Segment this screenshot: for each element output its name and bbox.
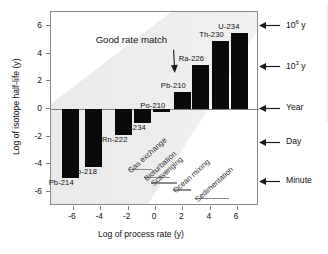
bar-label-po-218: Po-218 bbox=[72, 168, 97, 176]
x-tick-label: -4 bbox=[90, 211, 108, 221]
right-axis-arrow-icon bbox=[259, 177, 281, 186]
bar-label-pb-214: Pb-214 bbox=[49, 179, 74, 187]
x-axis-title: Log of process rate (y) bbox=[98, 229, 184, 239]
bar-label-po-210: Po-210 bbox=[140, 102, 165, 110]
y-tick-label: -6 bbox=[24, 186, 42, 196]
x-tick-mark bbox=[128, 206, 129, 210]
x-tick-mark bbox=[73, 206, 74, 210]
x-tick-label: 2 bbox=[172, 211, 190, 221]
bar-label-th-234: Th-234 bbox=[121, 124, 146, 132]
x-tick-label: -6 bbox=[63, 211, 81, 221]
y-tick-label: -2 bbox=[24, 131, 42, 141]
right-axis-arrow-icon bbox=[259, 138, 281, 147]
y-tick-label: -4 bbox=[24, 158, 42, 168]
x-tick-label: 0 bbox=[145, 211, 163, 221]
right-axis-label: 103 y bbox=[286, 60, 306, 71]
bar-label-ra-226: Ra-226 bbox=[179, 55, 205, 63]
bar-label-rn-222: Rn-222 bbox=[102, 136, 128, 144]
right-axis-label: Year bbox=[286, 102, 303, 112]
figure-isotope-half-life-vs-process-rate: Log of isotope half-life (y) 6420-2-4-6 … bbox=[0, 0, 328, 254]
bar-label-th-230: Th-230 bbox=[199, 31, 224, 39]
y-axis-title: Log of isotope half-life (y) bbox=[11, 59, 21, 156]
bar-po-218 bbox=[85, 109, 102, 167]
annotation-good-rate-match: Good rate match bbox=[96, 34, 167, 45]
bar-label-u-234: U-234 bbox=[218, 23, 239, 31]
right-axis-arrow-icon bbox=[259, 21, 281, 30]
bar-pb-210 bbox=[174, 92, 191, 109]
y-tick-label: 6 bbox=[24, 20, 42, 30]
y-tick-label: 0 bbox=[24, 103, 42, 113]
x-tick-mark bbox=[210, 206, 211, 210]
bar-th-234 bbox=[134, 109, 151, 123]
x-tick-mark bbox=[237, 206, 238, 210]
bar-ra-226 bbox=[192, 65, 209, 109]
x-tick-label: 6 bbox=[227, 211, 245, 221]
x-tick-label: 4 bbox=[200, 211, 218, 221]
plot-area: Pb-214Po-218Rn-222Th-234Po-210Pb-210Ra-2… bbox=[50, 11, 258, 205]
bar-label-pb-210: Pb-210 bbox=[161, 82, 186, 90]
x-tick-label: -2 bbox=[118, 211, 136, 221]
right-axis-label: Minute bbox=[286, 175, 312, 185]
right-axis-label: 106 y bbox=[286, 19, 306, 30]
right-axis-arrow-icon bbox=[259, 62, 281, 71]
y-tick-label: 4 bbox=[24, 48, 42, 58]
bar-th-230 bbox=[212, 41, 229, 109]
right-axis-arrow-icon bbox=[259, 104, 281, 113]
x-tick-mark bbox=[182, 206, 183, 210]
right-axis-label: Day bbox=[286, 136, 301, 146]
bar-u-234 bbox=[231, 33, 248, 109]
y-tick-label: 2 bbox=[24, 75, 42, 85]
x-tick-mark bbox=[100, 206, 101, 210]
x-tick-mark bbox=[155, 206, 156, 210]
